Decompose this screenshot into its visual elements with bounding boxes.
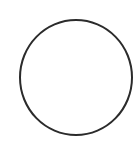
circle-shape bbox=[19, 19, 133, 136]
canvas bbox=[0, 0, 138, 154]
